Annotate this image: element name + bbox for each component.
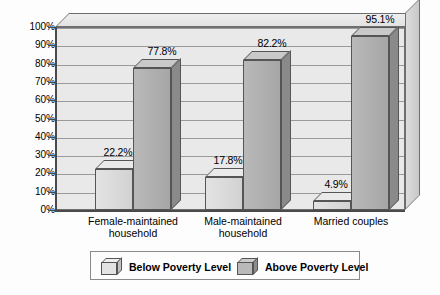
chart-3d-side-face: [405, 0, 420, 210]
bar-value-label: 82.2%: [247, 37, 297, 49]
gridline: [56, 28, 404, 29]
category-label: Male-maintained household: [183, 215, 303, 239]
bar-side-face: [171, 58, 181, 210]
bar-side-face: [389, 26, 399, 210]
bar-front-face: [205, 177, 243, 210]
y-axis-line: [55, 27, 57, 210]
bar-value-label: 77.8%: [137, 45, 187, 57]
chart-legend: Below Poverty Level Above Poverty Level: [90, 251, 360, 280]
bar-front-face: [243, 60, 281, 210]
bar-above-poverty: [133, 68, 171, 210]
legend-item-above: Above Poverty Level: [237, 256, 368, 277]
bar-below-poverty: [95, 169, 133, 210]
legend-swatch-icon: [101, 258, 123, 275]
y-axis-tick-mark: [48, 100, 55, 101]
y-axis-tick-mark: [48, 27, 55, 28]
y-axis-tick-mark: [48, 137, 55, 138]
y-axis-tick-mark: [48, 173, 55, 174]
bar-above-poverty: [351, 36, 389, 210]
y-axis-tick-mark: [48, 82, 55, 83]
bar-below-poverty: [313, 201, 351, 210]
category-label: Female-maintained household: [73, 215, 193, 239]
y-axis-tick-mark: [48, 119, 55, 120]
y-axis-tick-mark: [48, 192, 55, 193]
legend-label-above: Above Poverty Level: [265, 261, 368, 273]
poverty-level-bar-chart: 0%10%20%30%40%50%60%70%80%90%100% 22.2%7…: [0, 0, 440, 295]
legend-swatch-icon: [237, 258, 259, 275]
plot-area: 0%10%20%30%40%50%60%70%80%90%100% 22.2%7…: [0, 0, 440, 225]
category-label: Married couples: [291, 215, 411, 227]
y-axis-tick-mark: [48, 155, 55, 156]
y-axis-tick-mark: [48, 45, 55, 46]
bar-front-face: [133, 68, 171, 210]
bar-front-face: [313, 201, 351, 210]
bar-side-face: [281, 50, 291, 210]
bar-front-face: [95, 169, 133, 210]
y-axis-tick-mark: [48, 210, 55, 211]
x-axis-line: [55, 210, 405, 212]
y-axis-tick-mark: [48, 64, 55, 65]
legend-label-below: Below Poverty Level: [129, 261, 231, 273]
bar-front-face: [351, 36, 389, 210]
bar-above-poverty: [243, 60, 281, 210]
bar-value-label: 95.1%: [355, 13, 405, 25]
bar-below-poverty: [205, 177, 243, 210]
legend-item-below: Below Poverty Level: [101, 256, 231, 277]
